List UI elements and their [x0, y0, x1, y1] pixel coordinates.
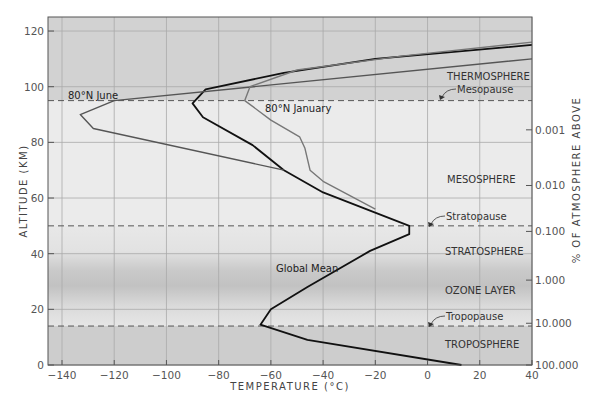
x-tick-label: −80: [208, 369, 230, 381]
svg-text:Stratopause: Stratopause: [446, 211, 507, 222]
label-global-mean: Global Mean: [276, 263, 338, 274]
label-80n-june: 80°N June: [68, 90, 118, 101]
x-axis-title: TEMPERATURE (°C): [229, 381, 350, 392]
x-tick-label: 0: [424, 369, 431, 381]
y2-tick-label: 0.010: [535, 179, 565, 191]
y2-tick-label: 0.100: [535, 225, 565, 237]
y-tick-label: 100: [24, 81, 44, 93]
y-tick-label: 0: [37, 359, 44, 371]
y-tick-label: 80: [31, 136, 44, 148]
y-tick-label: 20: [31, 303, 44, 315]
y-tick-label: 40: [31, 248, 44, 260]
x-tick-label: 20: [473, 369, 486, 381]
layer-label-troposphere: TROPOSPHERE: [444, 339, 519, 350]
layer-label-ozone: OZONE LAYER: [445, 285, 516, 296]
y2-tick-label: 100.000: [535, 359, 578, 371]
y-tick-label: 60: [31, 192, 44, 204]
x-tick-label: −40: [312, 369, 334, 381]
y2-tick-label: 1.000: [535, 274, 565, 286]
x-tick-label: −60: [260, 369, 282, 381]
layer-label-thermosphere: THERMOSPHERE: [446, 71, 530, 82]
svg-text:Tropopause: Tropopause: [445, 311, 503, 322]
y-axis-title: ALTITUDE (KM): [18, 144, 29, 237]
x-tick-label: −120: [100, 369, 129, 381]
y2-tick-label: 0.001: [535, 124, 565, 136]
layer-label-stratosphere: STRATOSPHERE: [445, 246, 524, 257]
x-tick-label: −140: [48, 369, 77, 381]
atmosphere-temperature-chart: −140−120−100−80−60−40−2002040 0204060801…: [0, 0, 591, 407]
svg-text:Mesopause: Mesopause: [457, 84, 513, 95]
x-tick-label: −20: [364, 369, 386, 381]
x-tick-label: −100: [152, 369, 181, 381]
layer-label-mesosphere: MESOSPHERE: [447, 174, 516, 185]
y2-tick-label: 10.000: [535, 317, 572, 329]
label-80n-january: 80°N January: [265, 103, 331, 114]
y-tick-label: 120: [24, 25, 44, 37]
y2-axis-title: % OF ATMOSPHERE ABOVE: [571, 97, 582, 264]
